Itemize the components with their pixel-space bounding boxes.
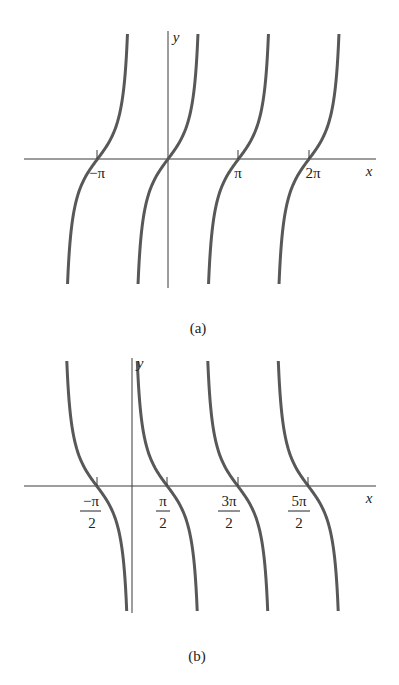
tick-label-2pi: 2π (305, 165, 321, 181)
caption-a: (a) (190, 320, 207, 337)
x-axis-label-b: x (365, 490, 373, 506)
fraction-denominator: 2 (295, 515, 303, 531)
caption-b: (b) (188, 648, 206, 665)
tick-label-3pi-over-2: 3π 2 (218, 493, 240, 531)
tick-label-neg-pi: −π (89, 165, 105, 181)
panel-a: −π π 2π x y (a) (24, 29, 376, 337)
fraction-denominator: 2 (88, 515, 96, 531)
tick-label-5pi-over-2: 5π 2 (288, 493, 310, 531)
fraction-denominator: 2 (225, 515, 233, 531)
panel-b: −π 2 π 2 3π 2 5π 2 x y (b) (24, 355, 376, 665)
figure: −π π 2π x y (a) −π 2 π 2 3π 2 5π (0, 0, 399, 685)
fraction-numerator: 3π (221, 493, 237, 509)
y-axis-label-b: y (135, 355, 144, 371)
tick-label-pi-over-2: π 2 (156, 493, 170, 531)
y-axis-label-a: y (171, 29, 180, 45)
fraction-numerator: −π (83, 493, 99, 509)
tick-label-neg-pi-over-2: −π 2 (80, 493, 101, 531)
fraction-numerator: 5π (291, 493, 307, 509)
tick-label-pi: π (234, 165, 242, 181)
x-axis-label-a: x (365, 163, 373, 179)
fraction-numerator: π (159, 493, 167, 509)
fraction-denominator: 2 (159, 515, 167, 531)
